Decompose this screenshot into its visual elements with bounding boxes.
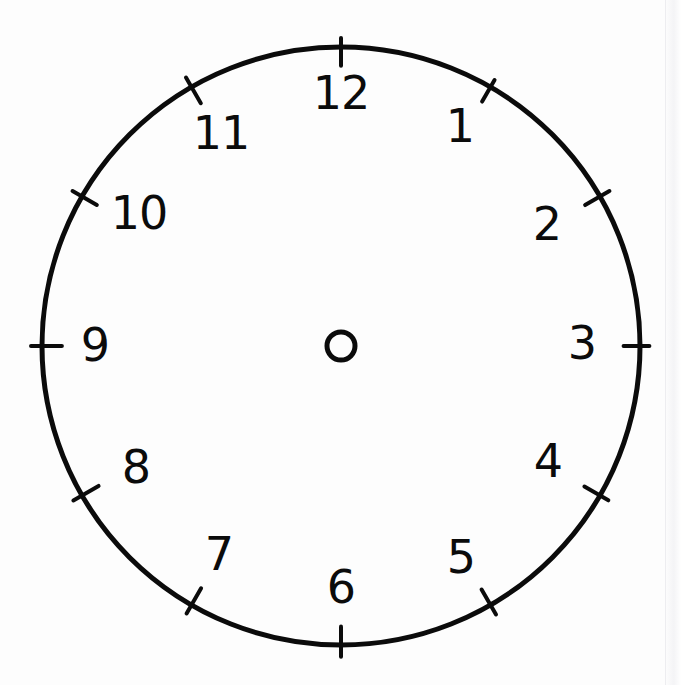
clock-face-drawing: 121234567891011 — [0, 0, 681, 685]
hour-numeral-2: 2 — [533, 197, 561, 251]
hour-numeral-11: 11 — [193, 106, 250, 160]
hour-numeral-10: 10 — [111, 186, 168, 240]
hour-numeral-5: 5 — [447, 530, 475, 584]
clock-rim-circle — [42, 47, 640, 645]
hour-numeral-8: 8 — [122, 440, 150, 494]
hour-numeral-group: 121234567891011 — [81, 66, 596, 614]
hour-numeral-1: 1 — [446, 99, 474, 153]
hour-numeral-9: 9 — [81, 318, 109, 372]
center-pivot-icon — [327, 332, 355, 360]
hour-numeral-4: 4 — [534, 434, 562, 488]
hour-numeral-3: 3 — [568, 316, 596, 370]
hour-numeral-7: 7 — [205, 527, 233, 581]
clock-face-page: 121234567891011 — [0, 0, 681, 685]
hour-numeral-12: 12 — [313, 66, 370, 120]
hour-numeral-6: 6 — [327, 560, 355, 614]
